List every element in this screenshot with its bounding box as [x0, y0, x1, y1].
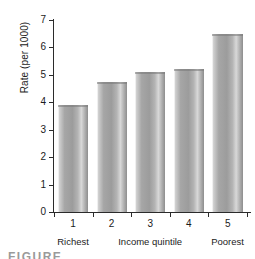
- x-tick-mark: [170, 212, 171, 217]
- y-tick-label: 6: [40, 42, 46, 52]
- x-tick-label-2: 2: [109, 219, 115, 229]
- x-tick-mark: [54, 212, 55, 217]
- x-label-richest: Richest: [57, 237, 89, 247]
- x-axis-title: Income quintile: [118, 237, 182, 247]
- y-axis-label: Rate (per 1000): [19, 0, 30, 118]
- bar-quintile-2: [97, 82, 127, 212]
- x-tick-mark: [131, 212, 132, 217]
- plot-area: 7 6 5 4 3 2 1 0: [54, 20, 251, 212]
- y-tick-label: 4: [40, 97, 46, 107]
- x-label-poorest: Poorest: [211, 237, 244, 247]
- bar-quintile-5: [212, 34, 243, 212]
- x-tick-mark: [208, 212, 209, 217]
- x-axis-line: [53, 212, 251, 213]
- x-tick-mark: [93, 212, 94, 217]
- x-tick-label-4: 4: [186, 219, 192, 229]
- y-tick-label: 1: [40, 180, 46, 190]
- y-tick-label: 0: [40, 207, 46, 217]
- x-tick-label-3: 3: [147, 219, 153, 229]
- y-tick-label: 3: [40, 125, 46, 135]
- y-tick-label: 5: [40, 70, 46, 80]
- y-tick-label: 7: [40, 15, 46, 25]
- x-tick-label-5: 5: [225, 219, 231, 229]
- x-tick-label-1: 1: [70, 219, 76, 229]
- figure-caption-partial: FIGURE: [8, 252, 86, 259]
- x-tick-mark: [247, 212, 248, 217]
- y-tick-label: 2: [40, 152, 46, 162]
- bar-quintile-3: [135, 72, 165, 212]
- bar-quintile-1: [58, 105, 88, 212]
- bar-chart-figure: Rate (per 1000) 7 6 5 4 3 2: [0, 0, 255, 259]
- bar-quintile-4: [174, 69, 204, 212]
